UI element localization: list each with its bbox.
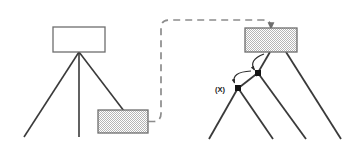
- tree-transformation-diagram: (X): [0, 0, 352, 151]
- source-root-box[interactable]: [53, 27, 105, 52]
- diagram-canvas: (X): [0, 0, 352, 151]
- source-subtree-box[interactable]: [98, 110, 148, 133]
- result-root-box[interactable]: [245, 28, 297, 52]
- node-upper-marker[interactable]: [255, 70, 261, 76]
- label-x: (X): [215, 85, 226, 94]
- node-lower-marker[interactable]: [235, 85, 241, 91]
